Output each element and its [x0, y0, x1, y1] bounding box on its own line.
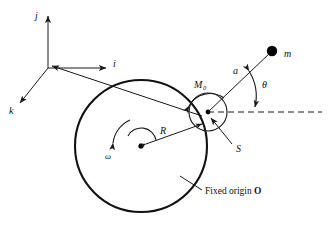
radius-label: R — [159, 125, 166, 136]
axes-to-pivot-leader — [52, 66, 202, 116]
pendulum-rod-line — [208, 53, 270, 112]
mass-label: m — [284, 48, 291, 59]
rod-length-label: a — [233, 65, 238, 76]
S-leader-line — [211, 118, 232, 144]
theta-angle: θ — [249, 71, 267, 107]
i-axis-label: i — [113, 58, 116, 69]
moment-arc-arrow — [189, 94, 224, 106]
theta-label: θ — [262, 79, 267, 90]
fixed-origin-text: Fixed origin O — [205, 186, 261, 196]
pivot-callout-S: S — [211, 118, 241, 154]
point-mass-dot — [267, 46, 277, 56]
radius-arrow — [146, 124, 202, 144]
physics-diagram: j i k R ω M 0 — [0, 0, 330, 231]
unit-vector-triad: j i k — [9, 10, 116, 116]
disk-center-dot — [138, 143, 143, 148]
moment-subscript: 0 — [203, 84, 207, 91]
moment-label: M — [193, 79, 203, 90]
angular-velocity-omega: ω — [105, 120, 130, 161]
S-label: S — [236, 143, 241, 154]
k-axis-label: k — [9, 105, 14, 116]
disk-center-arc — [128, 128, 156, 140]
omega-arc-arrow — [113, 120, 130, 143]
figure-canvas: j i k R ω M 0 — [0, 0, 330, 231]
radius-dimension-R: R — [146, 124, 202, 144]
omega-label: ω — [105, 151, 111, 161]
theta-arc-arrow — [249, 71, 256, 107]
k-axis-arrow — [20, 68, 48, 103]
j-axis-label: j — [33, 10, 38, 21]
